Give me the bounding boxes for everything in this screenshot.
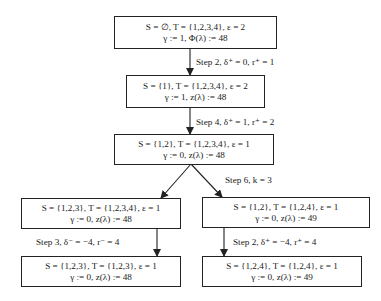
node-s124-t124: S = {1,2,4}, T = {1,2,4}, ε = 1 γ := 0, …	[202, 256, 362, 287]
node-root-line2: γ := 1, Φ(λ) := 48	[115, 33, 276, 44]
edge-n3-n4	[161, 164, 191, 198]
node-s123-t123-line1: S = {1,2,3}, T = {1,2,3}, ε = 1	[22, 261, 180, 272]
node-root: S = ∅, T = {1,2,3,4}, ε = 2 γ := 1, Φ(λ)…	[114, 16, 277, 49]
node-s12-line1: S = {1,2}, T = {1,2,3,4}, ε = 1	[115, 139, 273, 150]
edge-label-step4: Step 4, δ⁺ = 1, r⁺ = 2	[196, 116, 274, 127]
node-s123-line2: γ := 0, z(λ) := 48	[22, 214, 180, 225]
node-s1-line2: γ := 1, z(λ) := 48	[127, 92, 264, 103]
edge-label-step3: Step 3, δ⁻ = −4, r⁻ = 4	[36, 236, 119, 247]
node-s1: S = {1}, T = {1,2,3,4}, ε = 2 γ := 1, z(…	[126, 75, 265, 108]
node-s12-t124: S = {1,2}, T = {1,2,4}, ε = 1 γ := 0, z(…	[202, 197, 370, 228]
node-s124-t124-line2: γ := 0, z(λ) := 49	[203, 272, 361, 283]
node-s12: S = {1,2}, T = {1,2,3,4}, ε = 1 γ := 0, …	[114, 134, 274, 165]
node-s124-t124-line1: S = {1,2,4}, T = {1,2,4}, ε = 1	[203, 261, 361, 272]
node-s12-t124-line2: γ := 0, z(λ) := 49	[203, 213, 369, 224]
edge-n3-n5	[191, 164, 222, 197]
edge-label-step6: Step 6, k = 3	[225, 175, 272, 185]
node-s123-t123-line2: γ := 0, z(λ) := 48	[22, 272, 180, 283]
node-s123-t123: S = {1,2,3}, T = {1,2,3}, ε = 1 γ := 0, …	[21, 256, 181, 287]
node-s12-line2: γ := 0, z(λ) := 48	[115, 150, 273, 161]
edge-label-step2-bottom: Step 2, δ⁺ = −4, r⁺ = 4	[233, 236, 316, 247]
node-s12-t124-line1: S = {1,2}, T = {1,2,4}, ε = 1	[203, 202, 369, 213]
node-s1-line1: S = {1}, T = {1,2,3,4}, ε = 2	[127, 81, 264, 92]
edge-label-step2-top: Step 2, δ⁺ = 0, r⁺ = 1	[196, 56, 274, 67]
node-root-line1: S = ∅, T = {1,2,3,4}, ε = 2	[115, 22, 276, 33]
node-s123-line1: S = {1,2,3}, T = {1,2,3,4}, ε = 1	[22, 203, 180, 214]
node-s123: S = {1,2,3}, T = {1,2,3,4}, ε = 1 γ := 0…	[21, 198, 181, 229]
